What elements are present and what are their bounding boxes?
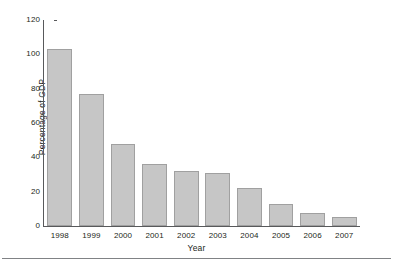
bar — [79, 94, 104, 226]
x-tick-label: 2006 — [297, 231, 329, 240]
x-axis-line — [43, 226, 360, 227]
plot-area — [44, 20, 360, 226]
y-tick-label: 0 — [18, 222, 40, 230]
bar — [237, 188, 262, 226]
bar — [47, 49, 72, 226]
x-tick-label: 2000 — [107, 231, 139, 240]
bar — [332, 217, 357, 226]
y-tick-label: 100 — [18, 50, 40, 58]
x-tick-label: 1998 — [44, 231, 76, 240]
bar — [300, 213, 325, 226]
bar — [111, 144, 136, 226]
x-tick-label: 2003 — [202, 231, 234, 240]
y-tick-label: 20 — [18, 188, 40, 196]
x-tick-label: 2002 — [170, 231, 202, 240]
x-tick-label: 2004 — [234, 231, 266, 240]
x-tick-label: 2007 — [328, 231, 360, 240]
y-tick-label: 120 — [18, 16, 40, 24]
x-tick-label: 1999 — [76, 231, 108, 240]
y-axis-tick-labels: 020406080100120 — [14, 0, 40, 272]
bar — [142, 164, 167, 226]
bar — [269, 204, 294, 226]
bar-chart-figure: Percentage of GDP 020406080100120 Year 1… — [0, 0, 393, 272]
x-tick-label: 2001 — [139, 231, 171, 240]
y-tick-label: 80 — [18, 85, 40, 93]
bottom-divider — [2, 258, 391, 259]
x-axis-title: Year — [0, 243, 393, 253]
bar — [174, 171, 199, 226]
bar — [205, 173, 230, 226]
y-tick-label: 60 — [18, 119, 40, 127]
y-tick-label: 40 — [18, 153, 40, 161]
x-tick-label: 2005 — [265, 231, 297, 240]
